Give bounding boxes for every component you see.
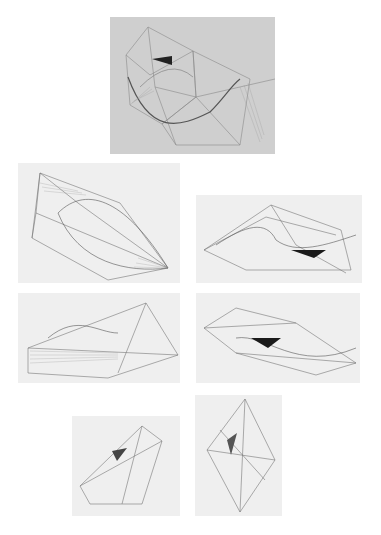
drawing-3 (196, 195, 362, 283)
drawing-2 (18, 163, 180, 283)
pencil-polyhedra-drawing (110, 17, 275, 154)
dark-triangle (291, 250, 326, 258)
wireframe-drawing (18, 293, 180, 383)
wireframe-drawing (195, 395, 282, 516)
wireframe-drawing (196, 195, 362, 283)
dark-triangle (152, 56, 172, 65)
wireframe-drawing (18, 163, 180, 283)
wireframe-drawing (72, 416, 180, 516)
dark-triangle (251, 338, 281, 348)
wireframe-drawing (196, 293, 360, 383)
shaded-surface (112, 448, 127, 461)
drawing-6 (72, 416, 180, 516)
shaded-surface (227, 433, 237, 455)
drawing-1 (110, 17, 275, 154)
drawing-4 (18, 293, 180, 383)
drawing-5 (196, 293, 360, 383)
drawing-7 (195, 395, 282, 516)
